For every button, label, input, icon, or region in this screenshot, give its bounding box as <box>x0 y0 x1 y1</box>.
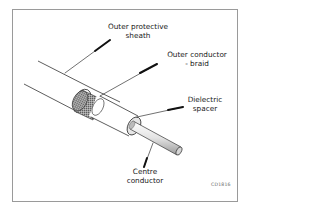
label-dielectric-spacer: Dielectric spacer <box>180 96 230 113</box>
label-outer-conductor-braid: Outer conductor - braid <box>157 51 237 68</box>
label-centre-conductor: Centre conductor <box>110 168 180 185</box>
label-outer-protective-sheath: Outer protective sheath <box>98 23 178 40</box>
figure-code: CD1816 <box>211 182 231 187</box>
centre-conductor <box>128 120 183 156</box>
